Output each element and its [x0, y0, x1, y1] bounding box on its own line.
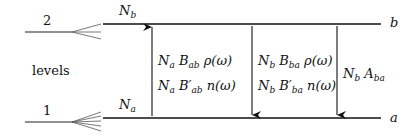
lower-level [25, 112, 381, 131]
population-nb: Nb [119, 4, 136, 20]
upper-level [25, 24, 381, 39]
level-b-letter: b [390, 16, 398, 29]
absorption-rate-photon: Na B′ab n(ω) [158, 79, 236, 95]
stimulated-rate-thermal: Nb Bba ρ(ω) [258, 54, 333, 70]
spontaneous-rate: Nb Aba [343, 67, 385, 83]
absorption-rate-thermal: Na Bab ρ(ω) [158, 54, 232, 70]
level-1-number: 1 [43, 104, 51, 117]
level-2-number: 2 [43, 14, 51, 27]
levels-label: levels [32, 64, 70, 77]
stimulated-rate-photon: Nb B′ba n(ω) [258, 79, 336, 95]
level-a-letter: a [390, 111, 398, 124]
population-na: Na [119, 98, 136, 114]
